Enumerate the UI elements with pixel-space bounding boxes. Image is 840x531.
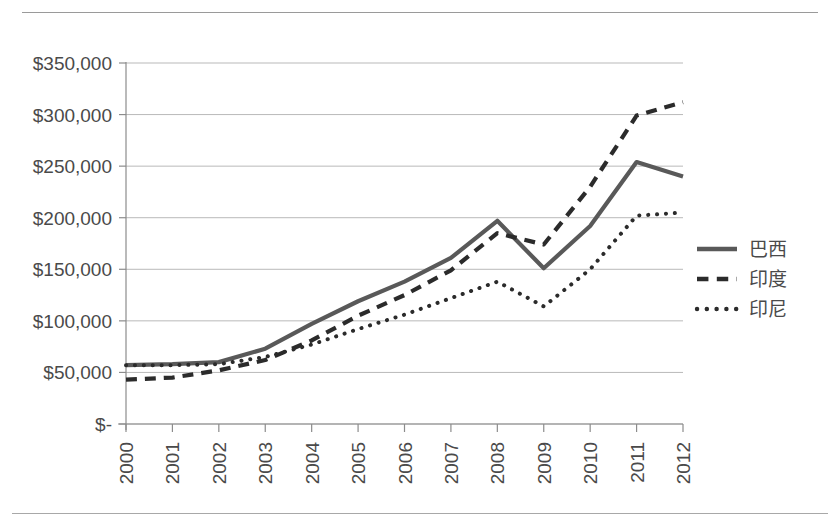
- line-chart-plot: $-$50,000$100,000$150,000$200,000$250,00…: [0, 0, 840, 531]
- data-series-group: [126, 102, 683, 379]
- chart-legend: 巴西印度印尼: [697, 239, 787, 320]
- y-tick-label: $350,000: [33, 53, 112, 74]
- x-tick-label: 2001: [162, 442, 183, 484]
- y-tick-label: $300,000: [33, 105, 112, 126]
- y-tick-label: $250,000: [33, 156, 112, 177]
- y-tick-label: $200,000: [33, 208, 112, 229]
- x-tick-label: 2006: [395, 442, 416, 484]
- y-tick-label: $100,000: [33, 311, 112, 332]
- data-series-line: [126, 102, 683, 379]
- x-tick-label: 2005: [348, 442, 369, 484]
- x-tick-label: 2000: [116, 442, 137, 484]
- x-tick-label: 2004: [302, 442, 323, 485]
- legend-label: 巴西: [749, 239, 787, 260]
- x-tick-label: 2007: [441, 442, 462, 484]
- data-series-line: [126, 162, 683, 365]
- x-tick-marks-group: [126, 424, 683, 432]
- x-tick-label: 2010: [580, 442, 601, 484]
- legend-label: 印尼: [749, 299, 787, 320]
- x-tick-label: 2011: [627, 442, 648, 483]
- y-tick-label: $-: [95, 414, 112, 435]
- x-tick-labels-group: 2000200120022003200420052006200720082009…: [116, 442, 694, 485]
- data-series-line: [126, 213, 683, 366]
- chart-figure: $-$50,000$100,000$150,000$200,000$250,00…: [0, 0, 840, 531]
- x-tick-label: 2008: [487, 442, 508, 484]
- y-tick-labels-group: $-$50,000$100,000$150,000$200,000$250,00…: [33, 53, 112, 435]
- y-tick-label: $150,000: [33, 259, 112, 280]
- y-tick-marks-group: [119, 63, 126, 424]
- x-tick-label: 2002: [209, 442, 230, 484]
- x-tick-label: 2003: [255, 442, 276, 484]
- legend-label: 印度: [749, 269, 787, 290]
- y-tick-label: $50,000: [43, 362, 112, 383]
- x-tick-label: 2012: [673, 442, 694, 484]
- x-tick-label: 2009: [534, 442, 555, 484]
